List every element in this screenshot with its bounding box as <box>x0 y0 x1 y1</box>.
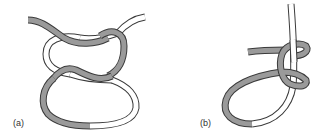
knot-diagram: .o { fill: none; stroke: #3a3a3a; stroke… <box>0 0 327 139</box>
panel-b-knot <box>225 4 307 124</box>
panel-b-caption: (b) <box>200 118 211 128</box>
panel-a-knot <box>28 17 145 126</box>
panel-a-caption: (a) <box>13 118 24 128</box>
